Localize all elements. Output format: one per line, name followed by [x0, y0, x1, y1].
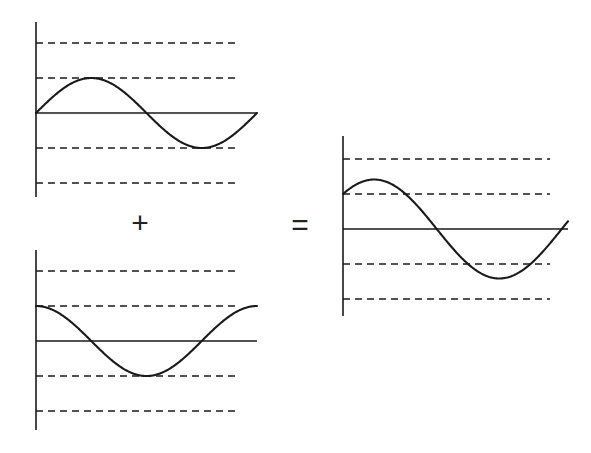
figure-root: + =	[0, 0, 591, 453]
equals-operator: =	[286, 210, 314, 240]
panel-sine-wave	[36, 22, 257, 197]
plus-operator: +	[126, 208, 154, 238]
panel-sum-wave	[343, 136, 568, 316]
panel-cosine-wave	[36, 250, 257, 430]
